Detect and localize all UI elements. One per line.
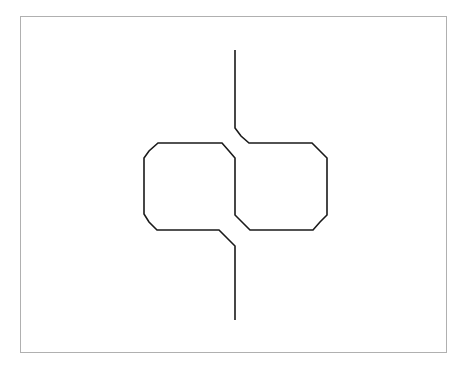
- knot-strand: [144, 50, 327, 320]
- knot-diagram: [0, 0, 468, 370]
